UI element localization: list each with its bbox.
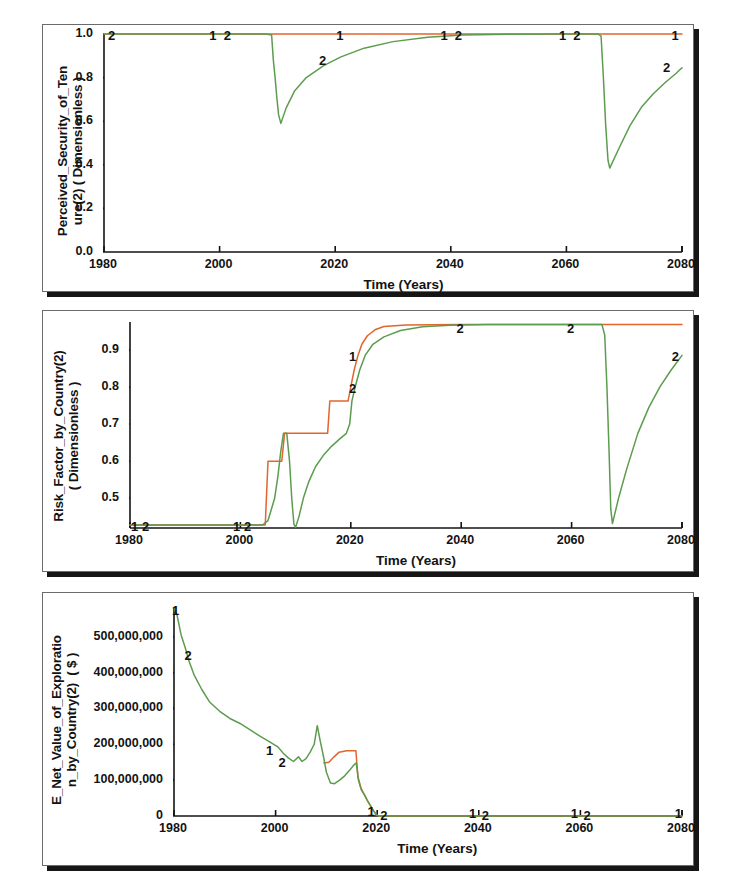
chart-1-xlabel: Time (Years): [364, 277, 444, 292]
chart-1-series-marker-1: 1: [209, 28, 216, 43]
chart-1-ytick: 1.0: [0, 26, 93, 40]
chart-3-ytick: 300,000,000: [43, 700, 163, 714]
chart-1-ytick: 0.6: [0, 113, 93, 127]
chart-1-series-marker-1: 1: [559, 28, 566, 43]
chart-2-plot: 0.50.60.70.80.9198020002020204020602080T…: [129, 321, 681, 527]
chart-1-series-marker-2: 2: [319, 53, 326, 68]
chart-3-ytick: 500,000,000: [43, 629, 163, 643]
chart-1-xtick: 2040: [436, 257, 464, 271]
chart-3-svg: [173, 607, 695, 817]
chart-3-ytick: 0: [43, 808, 163, 822]
chart-3-plot: 0100,000,000200,000,000300,000,000400,00…: [173, 607, 681, 815]
chart-3-series-marker-1: 1: [266, 742, 273, 757]
chart-2-xtick: 1980: [115, 533, 143, 547]
chart-2-series-marker-2: 2: [457, 320, 464, 335]
chart-3-series-marker-1: 1: [469, 806, 476, 821]
chart-3-series-marker-2: 2: [482, 807, 489, 822]
chart-2-ytick: 0.9: [0, 342, 119, 356]
chart-3-series-1: [324, 751, 682, 816]
chart-2-series-marker-1: 1: [131, 519, 138, 534]
chart-3-series-marker-2: 2: [185, 647, 192, 662]
chart-3-xtick: 2020: [362, 821, 390, 835]
chart-1-svg: [103, 33, 695, 253]
chart-2-xtick: 2000: [225, 533, 253, 547]
chart-3-series-marker-1: 1: [571, 806, 578, 821]
chart-1-series-marker-2: 2: [455, 28, 462, 43]
chart-1-xtick: 2060: [551, 257, 579, 271]
chart-1-ytick: 0.8: [0, 70, 93, 84]
chart-2-series-marker-2: 2: [672, 349, 679, 364]
chart-panel-2: Risk_Factor_by_Country(2)( Dimensionless…: [42, 310, 694, 572]
chart-1-series-marker-2: 2: [573, 28, 580, 43]
chart-1-xtick: 1980: [89, 257, 117, 271]
chart-2-xtick: 2020: [336, 533, 364, 547]
chart-3-ytick: 400,000,000: [43, 665, 163, 679]
chart-1-series-marker-1: 1: [440, 28, 447, 43]
chart-3-series-marker-1: 1: [367, 804, 374, 819]
chart-1-xtick: 2080: [667, 257, 695, 271]
chart-3-xtick: 1980: [159, 821, 187, 835]
chart-3-ytick: 100,000,000: [43, 772, 163, 786]
chart-3-series-marker-1: 1: [172, 602, 179, 617]
chart-3-xtick: 2000: [261, 821, 289, 835]
chart-3-series-2: [174, 608, 682, 816]
chart-2-xlabel: Time (Years): [376, 553, 456, 568]
chart-3-series-marker-2: 2: [380, 807, 387, 822]
chart-1-xtick: 2020: [320, 257, 348, 271]
chart-1-ylabel-line-1: Perceived_Security_of_Ten: [55, 31, 70, 271]
chart-3-ytick: 200,000,000: [43, 736, 163, 750]
chart-3-xtick: 2080: [667, 821, 695, 835]
chart-2-series-marker-2: 2: [567, 320, 574, 335]
chart-1-series-marker-1: 1: [672, 28, 679, 43]
chart-2-ytick: 0.8: [0, 379, 119, 393]
chart-3-xtick: 2060: [565, 821, 593, 835]
chart-1-series-marker-2: 2: [224, 28, 231, 43]
chart-1-series-marker-1: 1: [336, 28, 343, 43]
chart-2-series-1: [130, 325, 682, 525]
chart-panel-3: E_Net_Value_of_Exploration_by_Country(2)…: [42, 592, 694, 866]
chart-1-ylabel-line-2: ure(2) ( Dimensionless ): [70, 31, 85, 271]
graph-page: Perceived_Security_of_Tenure(2) ( Dimens…: [0, 0, 739, 891]
chart-1-ytick: 0.4: [0, 157, 93, 171]
chart-panel-1: Perceived_Security_of_Tenure(2) ( Dimens…: [42, 24, 694, 292]
chart-2-xtick: 2040: [446, 533, 474, 547]
chart-2-series-marker-2: 2: [349, 380, 356, 395]
chart-2-svg: [129, 321, 695, 529]
chart-3-xlabel: Time (Years): [397, 841, 477, 856]
chart-2-ytick: 0.5: [0, 490, 119, 504]
chart-1-ytick: 0.2: [0, 200, 93, 214]
chart-2-series-2: [130, 325, 682, 528]
chart-1-ytick: 0.0: [0, 244, 93, 258]
chart-1-xtick: 2000: [205, 257, 233, 271]
chart-3-series-marker-2: 2: [583, 807, 590, 822]
chart-2-series-marker-2: 2: [142, 519, 149, 534]
chart-2-series-marker-2: 2: [244, 519, 251, 534]
chart-2-xtick: 2080: [667, 533, 695, 547]
chart-3-xtick: 2040: [464, 821, 492, 835]
chart-2-series-marker-1: 1: [349, 349, 356, 364]
chart-1-series-marker-2: 2: [663, 59, 670, 74]
chart-2-xtick: 2060: [557, 533, 585, 547]
chart-1-plot: 0.00.20.40.60.81.01980200020202040206020…: [103, 33, 681, 251]
chart-1-series-marker-2: 2: [108, 28, 115, 43]
chart-1-series-2: [104, 34, 682, 168]
chart-1-ylabel: Perceived_Security_of_Tenure(2) ( Dimens…: [55, 31, 85, 271]
chart-3-series-marker-2: 2: [279, 755, 286, 770]
chart-2-ytick: 0.6: [0, 453, 119, 467]
chart-2-ytick: 0.7: [0, 416, 119, 430]
chart-3-series-marker-1: 1: [675, 806, 682, 821]
chart-2-series-marker-1: 1: [233, 519, 240, 534]
